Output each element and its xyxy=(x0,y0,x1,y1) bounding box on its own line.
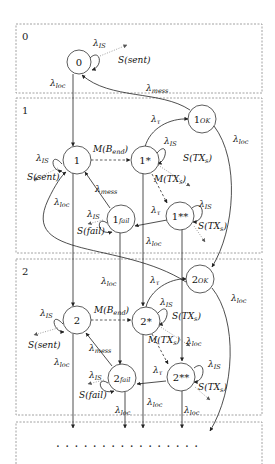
label-m-bend-1: M(Bend) xyxy=(92,144,129,156)
node-1: 1 xyxy=(63,146,91,174)
state-diagram: 0 1 2 ................ xyxy=(0,0,275,464)
label-lambda-loc-1ok: λloc xyxy=(232,134,249,146)
node-2fail: 2fail xyxy=(108,364,136,392)
label-lambda-is-1s: λIS xyxy=(163,136,177,148)
label-lambda-is-2s: λIS xyxy=(159,297,173,309)
label-lambda-is-1ss: λIS xyxy=(198,199,212,211)
edge-2-sent xyxy=(34,328,58,335)
node-1ok: 1OK xyxy=(188,105,216,133)
node-2-star: 2* xyxy=(132,307,160,335)
label-s-txs-2ss: S(TXs) xyxy=(198,382,227,394)
label-lambda-is-2: λIS xyxy=(39,308,53,320)
level-label-2: 2 xyxy=(22,266,28,277)
label-m-txs-1: M(TXs) xyxy=(153,174,186,186)
node-2ok: 2OK xyxy=(186,265,214,293)
label-s-txs-1ss: S(TXs) xyxy=(198,221,227,233)
node-2: 2 xyxy=(63,306,91,334)
label-lambda-loc-0: λloc xyxy=(49,78,66,90)
label-lambda-mess-2: λmess xyxy=(88,343,112,355)
node-1fail: 1fail xyxy=(107,205,135,233)
label-s-sent-2: S(sent) xyxy=(28,340,61,350)
node-1-star: 1* xyxy=(131,146,159,174)
level-label-1: 1 xyxy=(22,105,28,116)
label-lambda-tau-2ss: λτ xyxy=(152,365,163,377)
label-lambda-loc-1: λloc xyxy=(53,197,70,209)
edge-1ss-to-1fail xyxy=(135,220,167,226)
svg-text:1*: 1* xyxy=(139,155,150,166)
svg-text:2*: 2* xyxy=(140,316,151,327)
node-2-double-star: 2** xyxy=(167,363,195,391)
svg-text:1**: 1** xyxy=(172,211,188,222)
edge-2ss-to-2fail xyxy=(137,381,166,384)
level-box-3: ................ xyxy=(16,422,262,464)
svg-text:2: 2 xyxy=(74,315,80,326)
label-lambda-loc-2star: λloc xyxy=(146,397,163,409)
self-loop-1 xyxy=(53,159,62,171)
node-1-double-star: 1** xyxy=(166,202,194,230)
self-loop-2 xyxy=(54,319,64,332)
label-lambda-loc-2ok: λloc xyxy=(230,293,247,305)
edge-1ok-to-0 xyxy=(82,75,190,110)
label-lambda-is-2fail: λIS xyxy=(88,370,102,382)
node-0: 0 xyxy=(67,50,91,74)
label-lambda-tau-1ss: λτ xyxy=(150,205,161,217)
svg-text:0: 0 xyxy=(76,57,82,68)
label-s-sent-0: S(sent) xyxy=(118,55,151,65)
label-lambda-tau-1: λτ xyxy=(150,114,161,126)
label-lambda-loc-1fail: λloc xyxy=(100,276,117,288)
label-lambda-is-2ss: λIS xyxy=(207,359,221,371)
label-s-fail-1: S(fail) xyxy=(77,226,105,236)
edge-1ok-to-2ok xyxy=(212,126,231,267)
label-lambda-loc-2: λloc xyxy=(53,357,70,369)
label-lambda-mess-1: λmess xyxy=(94,184,118,196)
label-s-fail-2: S(fail) xyxy=(79,390,107,400)
label-m-txs-2: M(TXs) xyxy=(147,335,180,347)
label-lambda-loc-2s: λloc xyxy=(185,336,202,348)
svg-text:1: 1 xyxy=(74,155,80,166)
label-m-bend-2: M(Bend) xyxy=(93,305,130,317)
label-lambda-tau-2: λτ xyxy=(149,275,160,287)
label-s-txs-1s: S(TXs) xyxy=(183,153,212,165)
label-lambda-loc-2ss: λloc xyxy=(183,405,200,417)
level-label-0: 0 xyxy=(22,31,28,42)
self-loop-0 xyxy=(90,55,99,70)
label-s-txs-2s: S(TXs) xyxy=(172,311,201,323)
label-lambda-is-0: λIS xyxy=(92,38,106,50)
label-lambda-is-1fail: λIS xyxy=(86,209,100,221)
self-loop-2ss xyxy=(194,366,203,382)
label-lambda-loc-1s: λloc xyxy=(145,236,162,248)
label-s-sent-1: S(sent) xyxy=(27,172,60,182)
svg-text:2**: 2** xyxy=(173,372,189,383)
continuation-dots: ................ xyxy=(56,436,203,450)
label-lambda-is-1: λIS xyxy=(35,153,49,165)
